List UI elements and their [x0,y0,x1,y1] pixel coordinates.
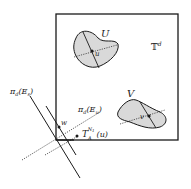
label-stable-proj: πd(Es) [9,87,33,97]
unstable-line-parallel [45,136,78,155]
label-V: V [127,88,136,99]
torus-label: 𝕋d [151,40,162,52]
label-translate: TAN1(u) [82,126,108,141]
label-v: v [140,113,144,121]
stable-line [30,96,80,178]
point-translate [76,135,79,138]
label-U: U [101,28,110,39]
label-unstable-proj: πd(Eu) [77,105,102,115]
label-w: w [61,119,67,127]
diagram-canvas: U u V v 𝕋d w TAN1(u) πd(Es) πd(Eu) [0,0,191,189]
label-u: u [95,50,100,58]
